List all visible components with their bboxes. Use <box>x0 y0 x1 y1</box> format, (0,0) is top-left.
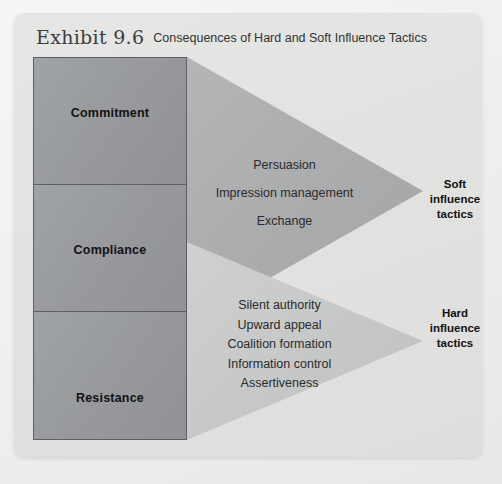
exhibit-title: Exhibit 9.6Consequences of Hard and Soft… <box>36 26 427 48</box>
outcome-label-resistance: Resistance <box>76 391 144 405</box>
outcome-box-resistance: Resistance <box>33 311 187 440</box>
hard-tactic-item: Coalition formation <box>187 335 372 355</box>
outcome-label-commitment: Commitment <box>71 106 149 120</box>
hard-tactics-list: Silent authority Upward appeal Coalition… <box>187 296 372 394</box>
soft-tactic-item: Persuasion <box>187 151 382 179</box>
soft-tactics-list: Persuasion Impression management Exchang… <box>187 151 382 235</box>
hard-category-line-3: tactics <box>412 336 498 351</box>
soft-category-line-2: influence <box>412 192 498 207</box>
exhibit-number-label: Exhibit 9.6 <box>36 26 144 48</box>
outcome-box-compliance: Compliance <box>33 184 187 312</box>
outcome-label-compliance: Compliance <box>74 243 147 257</box>
soft-category-line-1: Soft <box>412 177 498 192</box>
exhibit-caption: Consequences of Hard and Soft Influence … <box>153 31 427 45</box>
soft-tactic-item: Impression management <box>187 179 382 207</box>
soft-influence-category-label: Soft influence tactics <box>412 177 498 222</box>
page-background: Exhibit 9.6Consequences of Hard and Soft… <box>0 0 502 484</box>
outcome-box-commitment: Commitment <box>33 57 187 185</box>
hard-tactic-item: Silent authority <box>187 296 372 316</box>
hard-tactic-item: Upward appeal <box>187 316 372 336</box>
hard-tactic-item: Assertiveness <box>187 374 372 394</box>
hard-category-line-1: Hard <box>412 306 498 321</box>
exhibit-card: Exhibit 9.6Consequences of Hard and Soft… <box>14 13 482 457</box>
soft-category-line-3: tactics <box>412 207 498 222</box>
hard-influence-category-label: Hard influence tactics <box>412 306 498 351</box>
soft-tactic-item: Exchange <box>187 207 382 235</box>
hard-tactic-item: Information control <box>187 355 372 375</box>
hard-category-line-2: influence <box>412 321 498 336</box>
